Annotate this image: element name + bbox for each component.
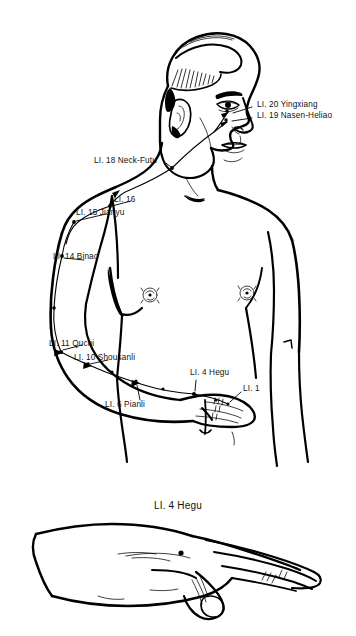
head-group xyxy=(160,33,260,178)
point-li5 xyxy=(161,387,164,390)
point-li2 xyxy=(215,399,218,402)
label-li19: LI. 19 Nasen-Heliao xyxy=(257,110,332,121)
point-li9 xyxy=(110,370,113,373)
point-li13 xyxy=(52,306,56,310)
label-li14: LI. 14 Binao xyxy=(53,251,99,262)
hand-detail-group xyxy=(33,524,321,619)
point-li11 xyxy=(59,350,63,354)
figure-root: LI. 20 Yingxiang LI. 19 Nasen-Heliao LI.… xyxy=(0,0,356,636)
label-li16: LI. 16 xyxy=(114,194,135,205)
hair-hatching xyxy=(172,69,214,88)
point-li4 xyxy=(192,392,196,396)
hand-detail-caption: LI. 4 Hegu xyxy=(0,500,356,511)
point-li19 xyxy=(224,118,227,121)
torso-group xyxy=(51,143,308,466)
point-li6 xyxy=(134,379,137,382)
point-li1 xyxy=(227,403,230,406)
label-li20: LI. 20 Yingxiang xyxy=(257,99,318,110)
point-li4-hand xyxy=(178,550,183,555)
label-li15: LI. 15 Jianyu xyxy=(76,207,124,218)
nipple-left xyxy=(141,288,159,303)
anatomical-illustration xyxy=(0,0,356,636)
label-li1: LI. 1 xyxy=(243,383,260,394)
label-li6: LI. 6 Pianli xyxy=(105,399,145,410)
label-li4: LI. 4 Hegu xyxy=(190,367,229,378)
thumb xyxy=(184,572,224,619)
label-li11: LI. 11 Quchi xyxy=(49,338,94,349)
point-li15 xyxy=(72,220,76,224)
point-li20 xyxy=(225,109,228,112)
ear xyxy=(170,99,191,138)
label-li18: LI. 18 Neck-Futu xyxy=(94,155,157,166)
label-li10: LI. 10 Shousanli xyxy=(74,352,135,363)
